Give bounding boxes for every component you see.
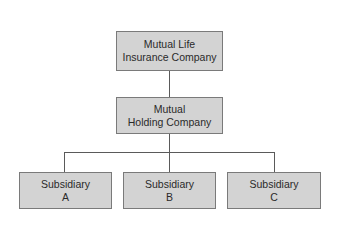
node-label-line1: Subsidiary — [249, 178, 298, 191]
node-label-line1: Mutual — [154, 103, 186, 116]
node-label-line2: A — [62, 191, 69, 204]
node-label-line1: Subsidiary — [145, 178, 194, 191]
node-label-line2: C — [270, 191, 278, 204]
connector-to-sub-c — [274, 152, 275, 172]
node-subsidiary-c: Subsidiary C — [227, 172, 321, 209]
node-label-line2: B — [166, 191, 173, 204]
node-label-line1: Mutual Life — [144, 38, 195, 51]
node-subsidiary-a: Subsidiary A — [19, 172, 112, 209]
node-label-line2: Insurance Company — [123, 51, 217, 64]
node-mutual-life-insurance-company: Mutual Life Insurance Company — [116, 31, 223, 71]
connector-to-sub-b — [169, 152, 170, 172]
connector-to-sub-a — [64, 152, 65, 172]
node-mutual-holding-company: Mutual Holding Company — [116, 97, 223, 134]
connector-holding-down — [169, 134, 170, 152]
node-label-line1: Subsidiary — [41, 178, 90, 191]
node-subsidiary-b: Subsidiary B — [123, 172, 216, 209]
node-label-line2: Holding Company — [128, 116, 211, 129]
connector-life-to-holding — [169, 71, 170, 97]
